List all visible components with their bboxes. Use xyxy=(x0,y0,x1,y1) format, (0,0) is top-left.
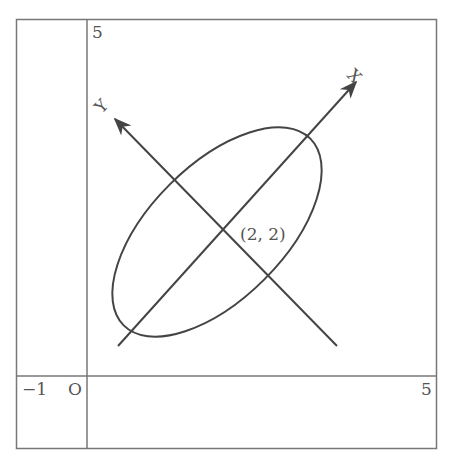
center-label: (2, 2) xyxy=(240,226,286,243)
y-tick-5: 5 xyxy=(92,24,103,41)
x-tick-5: 5 xyxy=(421,381,432,398)
rotated-x-axis xyxy=(118,82,356,346)
x-tick-neg1: −1 xyxy=(22,381,47,398)
origin-label: O xyxy=(68,381,82,398)
ellipse xyxy=(76,91,357,372)
diagram-canvas xyxy=(0,0,450,470)
